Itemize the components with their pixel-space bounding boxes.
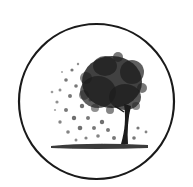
ground: [51, 144, 148, 149]
tree-icon: [51, 52, 148, 149]
trunk: [121, 104, 131, 144]
canopy: [79, 52, 147, 114]
tree-emblem-logo: [0, 0, 193, 187]
